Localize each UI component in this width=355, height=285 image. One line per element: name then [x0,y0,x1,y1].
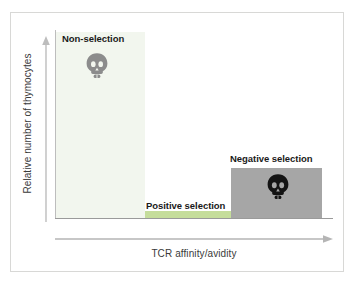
skull-icon [85,52,109,80]
x-axis-arrow-icon [55,233,333,245]
region-positive-selection [145,211,231,218]
label-positive-selection: Positive selection [146,200,225,211]
x-axis-title: TCR affinity/avidity [55,248,333,259]
thymocyte-selection-figure: Relative number of thymocytes [0,0,355,285]
label-negative-selection: Negative selection [230,153,313,164]
y-axis-title: Relative number of thymocytes [22,24,33,224]
label-non-selection: Non-selection [62,33,124,44]
x-axis-line [55,218,333,219]
y-axis-arrow-icon [40,36,52,222]
skull-icon [266,173,290,201]
